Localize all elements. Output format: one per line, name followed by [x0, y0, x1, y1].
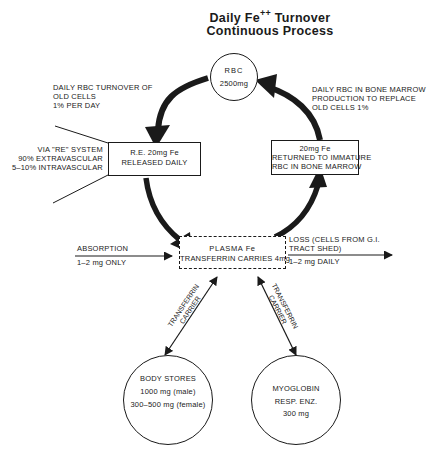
arrow-re-to-plasma	[146, 178, 180, 240]
plasma-box-line-1: PLASMA Fe	[180, 244, 285, 253]
myoglobin-title: MYOGLOBIN	[252, 384, 340, 393]
marrow-box-line-1: 20mg Fe	[272, 144, 358, 153]
rbc-node: RBC 2500mg	[210, 53, 258, 101]
re-box-line-2: RELEASED DAILY	[109, 158, 200, 167]
rbc-amount: 2500mg	[211, 79, 257, 88]
myoglobin-amount: 300 mg	[252, 409, 340, 418]
arrow-rbc-to-re	[158, 78, 208, 130]
body-stores-female: 300–500 mg (female)	[124, 400, 212, 409]
plasma-transferrin-box: PLASMA Fe TRANSFERRIN CARRIES 4mg	[179, 236, 286, 269]
absorption-annotation: ABSORPTION 1–2 mg ONLY	[77, 244, 128, 267]
production-annotation: DAILY RBC IN BONE MARROW PRODUCTION TO R…	[312, 85, 426, 112]
re-box-line-1: R.E. 20mg Fe	[109, 148, 200, 157]
arrow-plasma-to-marrow	[275, 185, 318, 237]
diagram-title: Daily Fe++ Turnover Continuous Process	[190, 12, 350, 38]
plasma-box-line-2: TRANSFERRIN CARRIES 4mg	[180, 254, 285, 263]
loss-annotation: LOSS (CELLS FROM G.I. TRACT SHED) 1–2 mg…	[289, 235, 380, 266]
myoglobin-node: MYOGLOBIN RESP. ENZ. 300 mg	[251, 355, 341, 445]
body-stores-title: BODY STORES	[124, 374, 212, 383]
title-line-2: Continuous Process	[190, 25, 350, 38]
body-stores-male: 1000 mg (male)	[124, 387, 212, 396]
marrow-box-line-2: RETURNED TO IMMATURE	[272, 153, 358, 162]
rbc-label: RBC	[211, 66, 257, 75]
body-stores-node: BODY STORES 1000 mg (male) 300–500 mg (f…	[123, 355, 213, 445]
re-bracket-lower	[53, 175, 108, 203]
re-released-box: R.E. 20mg Fe RELEASED DAILY	[108, 142, 201, 176]
myoglobin-resp-enz: RESP. ENZ.	[252, 397, 340, 406]
turnover-annotation: DAILY RBC TURNOVER OF OLD CELLS 1% PER D…	[53, 83, 153, 110]
marrow-box-line-3: RBC IN BONE MARROW	[272, 162, 358, 171]
arrowhead-rbc	[255, 74, 277, 98]
bone-marrow-box: 20mg Fe RETURNED TO IMMATURE RBC IN BONE…	[271, 140, 359, 175]
re-system-annotation: VIA "RE" SYSTEM 90% EXTRAVASCULAR 5–10% …	[0, 145, 103, 172]
re-bracket-upper	[55, 126, 108, 143]
